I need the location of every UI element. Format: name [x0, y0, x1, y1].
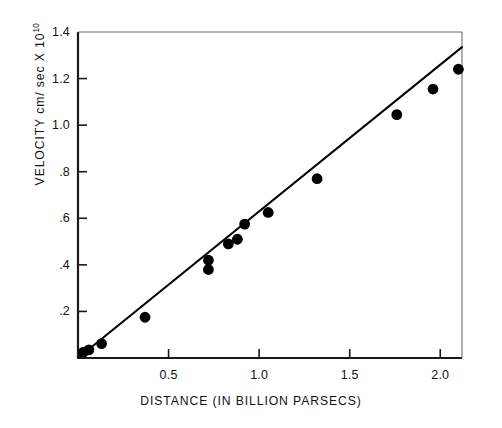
data-point: [263, 207, 274, 218]
x-axis-title: DISTANCE (IN BILLION PARSECS): [0, 394, 502, 408]
data-point: [428, 84, 439, 95]
data-point: [140, 312, 151, 323]
data-point: [203, 264, 214, 275]
y-axis-exponent: 10: [31, 23, 41, 33]
data-points: [78, 64, 464, 358]
data-point: [453, 64, 464, 75]
data-point: [83, 344, 94, 355]
data-point: [203, 255, 214, 266]
x-tick-label: 1.0: [250, 369, 268, 382]
x-tick-label: 0.5: [160, 369, 178, 382]
data-point: [312, 173, 323, 184]
y-axis-title-text: VELOCITY cm/ sec X 10: [33, 33, 47, 186]
hubble-diagram-figure: .2.4.6.81.01.21.4 0.51.01.52.0 DISTANCE …: [0, 0, 502, 428]
y-tick-label: .4: [28, 259, 70, 272]
data-point: [96, 338, 107, 349]
axis-frame: [78, 32, 462, 358]
data-point: [391, 109, 402, 120]
data-point: [232, 234, 243, 245]
data-point: [239, 219, 250, 230]
tick-marks: [78, 79, 440, 358]
regression-line: [78, 47, 462, 358]
x-tick-label: 2.0: [431, 369, 449, 382]
plot-canvas: [0, 0, 502, 428]
y-tick-label: .2: [28, 305, 70, 318]
y-axis-title: VELOCITY cm/ sec X 1010: [31, 0, 47, 229]
x-tick-label: 1.5: [341, 369, 359, 382]
